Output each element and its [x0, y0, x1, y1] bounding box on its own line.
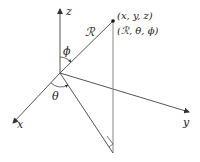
- y-axis-label: y: [182, 116, 190, 129]
- point-marker: [111, 19, 115, 23]
- spherical-coordinates-diagram: z x y ℛ ϕ θ (x, y, z) (ℛ, θ, ϕ): [0, 0, 200, 162]
- z-axis-label: z: [65, 5, 72, 18]
- y-axis: [60, 73, 189, 112]
- x-axis-label: x: [17, 118, 24, 131]
- theta-arc: [51, 83, 68, 87]
- radius-label: ℛ: [85, 25, 96, 39]
- diagram-svg: z x y ℛ ϕ θ (x, y, z) (ℛ, θ, ϕ): [0, 0, 200, 162]
- point-spherical-label: (ℛ, θ, ϕ): [117, 25, 158, 36]
- theta-label: θ: [52, 90, 59, 103]
- phi-label: ϕ: [63, 45, 71, 58]
- point-cartesian-label: (x, y, z): [117, 10, 153, 21]
